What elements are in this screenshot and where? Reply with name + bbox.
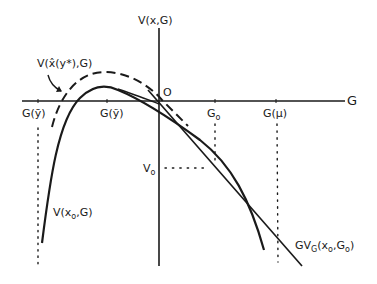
solid-curve-label: V(xo,G) [53,206,93,221]
dashed-curve-label: V(x̂(y*),G) [37,57,92,70]
x-tick-label-g-ytilde: G(ỹ) [100,107,124,120]
y-axis-label: V(x,G) [138,14,173,27]
origin-label: O [163,86,172,99]
dotted-guide-g-mu [277,124,278,262]
diagram-canvas: V(x,G) G O G(ȳ) G(ỹ) Go G(μ) Vo V(x̂(y*)… [0,0,377,284]
x-tick-label-g0: Go [207,107,221,122]
x-axis-label: G [347,93,357,108]
x-tick-label-g-mu: G(μ) [263,107,287,120]
tangent-line-label: GVG(xo,Go) [295,239,354,254]
y-tick-label-v0: Vo [143,162,156,177]
x-tick-label-g-ybar: G(ȳ) [22,107,46,120]
